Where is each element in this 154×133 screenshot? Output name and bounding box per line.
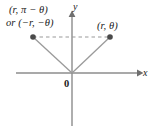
x-axis-label: x xyxy=(143,68,148,78)
ray-to-left-point xyxy=(33,37,72,73)
left-point-label-line1: (r, π − θ) xyxy=(9,5,48,16)
ray-to-right-point xyxy=(72,37,110,73)
polar-coordinates-diagram: (r, π − θ) or (−r, −θ) (r, θ) y x 0 xyxy=(0,0,154,133)
point-right-marker xyxy=(107,34,113,40)
y-axis-label: y xyxy=(73,2,78,12)
origin-label: 0 xyxy=(64,79,69,90)
left-point-label-line2: or (−r, −θ) xyxy=(6,18,54,29)
point-left-marker xyxy=(30,34,36,40)
right-point-label: (r, θ) xyxy=(97,21,118,32)
